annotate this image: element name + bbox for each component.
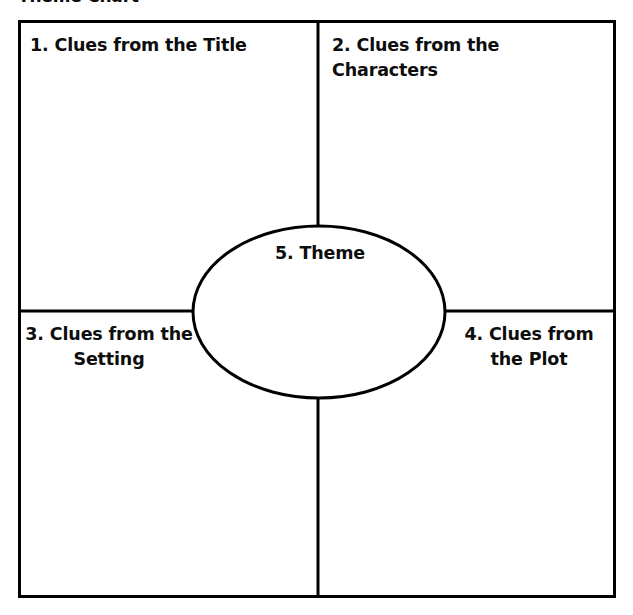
quadrant-label-title-clues: 1. Clues from the Title [30, 33, 308, 58]
center-ellipse-label: 5. Theme [194, 243, 446, 263]
quadrant-label-character-clues: 2. Clues from the Characters [332, 33, 610, 83]
quadrant-label-plot-clues: 4. Clues from the Plot [446, 322, 612, 372]
theme-chart-diagram [0, 0, 633, 615]
theme-chart-worksheet: Theme Chart 1. Clues from the Title 2. C… [0, 0, 633, 615]
quadrant-label-setting-clues: 3. Clues from the Setting [24, 322, 194, 372]
theme-chart-svg [0, 0, 633, 615]
